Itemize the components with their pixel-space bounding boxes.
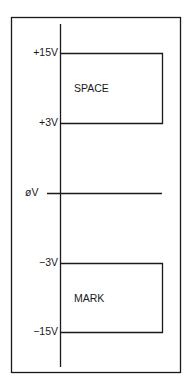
label-minus-3v: −3V: [10, 256, 58, 268]
region-label-space: SPACE: [74, 82, 109, 94]
label-minus-15v: −15V: [10, 325, 58, 337]
label-plus-3v: +3V: [10, 116, 58, 128]
label-zero-v: øV: [25, 186, 38, 198]
label-plus-15v: +15V: [10, 46, 58, 58]
region-label-mark: MARK: [74, 292, 104, 304]
